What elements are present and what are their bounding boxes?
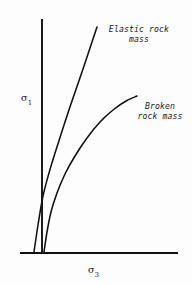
sigma1-symbol: σ: [21, 92, 28, 103]
annotation-broken-rock-mass: Brokenrock mass: [130, 101, 190, 121]
annotation-elastic-line2: mass: [129, 34, 149, 44]
curve-elastic-rock-mass: [34, 27, 97, 252]
annotation-broken-line1: Broken: [145, 101, 175, 111]
sigma1-subscript: 1: [28, 99, 32, 107]
annotation-elastic-line1: Elastic rock: [109, 24, 169, 34]
rock-mass-strength-figure: Elastic rockmass Brokenrock mass σ1 σ3: [0, 0, 192, 285]
sigma3-subscript: 3: [95, 271, 99, 279]
annotation-elastic-rock-mass: Elastic rockmass: [96, 24, 182, 44]
curve-broken-rock-mass: [44, 96, 137, 252]
sigma3-symbol: σ: [88, 264, 95, 275]
annotation-broken-line2: rock mass: [137, 111, 182, 121]
x-axis-label-sigma3: σ3: [88, 264, 99, 278]
y-axis-label-sigma1: σ1: [21, 92, 32, 106]
